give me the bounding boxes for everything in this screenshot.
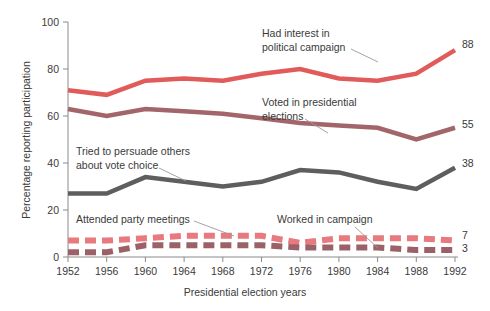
annotation-persuade-line2: about vote choice [76, 159, 158, 171]
annotation-worked: Worked in campaign [277, 213, 373, 225]
x-tick-label-1992: 1992 [443, 265, 467, 277]
end-label-persuade: 38 [462, 157, 474, 169]
y-axis-title: Percentage reporting participation [20, 61, 32, 219]
x-tick-label-group: 1952195619601964196819721976198019841988… [56, 265, 467, 277]
x-tick-label-1952: 1952 [56, 265, 80, 277]
series-line-0 [68, 50, 455, 95]
leader-line-had-interest [351, 49, 378, 62]
end-label-had-interest: 88 [462, 38, 474, 50]
x-axis-title: Presidential election years [184, 286, 307, 298]
x-tick-label-1960: 1960 [134, 265, 158, 277]
annotation-had-interest-line2: political campaign [262, 41, 346, 53]
x-tick-label-1972: 1972 [250, 265, 274, 277]
chart-container: 100 80 60 40 20 0 Percentage reporting p… [0, 0, 490, 311]
end-label-worked: 3 [462, 242, 468, 254]
x-tick-label-1956: 1956 [95, 265, 119, 277]
y-tick-label-60: 60 [47, 110, 59, 122]
annotation-voted-line1: Voted in presidential [262, 96, 357, 108]
annotation-attended: Attended party meetings [76, 213, 190, 225]
x-tick-label-1984: 1984 [366, 265, 390, 277]
x-tick-label-1976: 1976 [289, 265, 313, 277]
end-label-attended: 7 [462, 229, 468, 241]
y-tick-label-100: 100 [41, 16, 59, 28]
x-tick-label-1964: 1964 [172, 265, 196, 277]
participation-line-chart: 100 80 60 40 20 0 Percentage reporting p… [0, 0, 490, 311]
y-tick-label-0: 0 [53, 251, 59, 263]
series-line-3 [68, 236, 455, 243]
x-tick-label-1988: 1988 [405, 265, 429, 277]
series-line-2 [68, 168, 455, 194]
x-tick-label-1968: 1968 [211, 265, 235, 277]
series-line-4 [68, 245, 455, 252]
x-tick-label-1980: 1980 [327, 265, 351, 277]
y-tick-label-20: 20 [47, 204, 59, 216]
x-tick-group [68, 257, 455, 262]
y-tick-label-40: 40 [47, 157, 59, 169]
annotation-persuade-line1: Tried to persuade others [76, 145, 190, 157]
annotation-voted-line2: elections [262, 110, 303, 122]
annotation-had-interest-line1: Had interest in [262, 27, 330, 39]
end-label-voted: 55 [462, 118, 474, 130]
y-tick-label-80: 80 [47, 63, 59, 75]
